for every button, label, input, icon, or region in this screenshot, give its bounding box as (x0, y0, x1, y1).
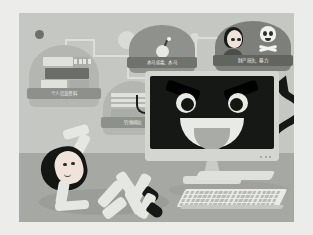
badge-label-malware: 木马病毒、木马 (127, 57, 197, 68)
evil-pupil-left (181, 98, 194, 111)
connector-line-4 (93, 55, 129, 57)
badge-label-victim-harm: 财产损失、暴力 (213, 55, 293, 66)
evil-pupil-right (230, 98, 243, 111)
monitor-leds-icon (260, 156, 271, 158)
monitor-chin (145, 151, 279, 161)
keyboard-edge (180, 205, 284, 209)
mousepad-icon[interactable] (195, 171, 275, 180)
illustration-frame: 个人信息资料 钓鱼网站 木马病毒、木马 (19, 13, 294, 222)
node-dark-icon (35, 30, 44, 39)
badge-label-personal-data: 个人信息资料 (27, 88, 101, 99)
connector-line-2 (65, 39, 95, 41)
computer-monitor[interactable] (145, 71, 279, 161)
illustration-canvas: 个人信息资料 钓鱼网站 木马病毒、木马 (0, 0, 313, 235)
person-eye-left (63, 163, 67, 166)
monitor-screen (150, 76, 274, 149)
person-eye-right (71, 162, 75, 165)
